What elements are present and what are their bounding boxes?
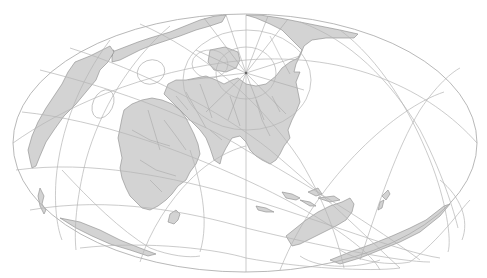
region-new-zealand xyxy=(378,190,390,210)
region-antarctica xyxy=(60,204,450,264)
pole-meridians xyxy=(188,15,304,272)
tissot-loop xyxy=(134,56,169,88)
pole-marker-icon xyxy=(245,72,248,75)
region-south-america xyxy=(28,46,114,168)
world-map xyxy=(0,0,487,278)
region-patagonia xyxy=(38,188,46,214)
